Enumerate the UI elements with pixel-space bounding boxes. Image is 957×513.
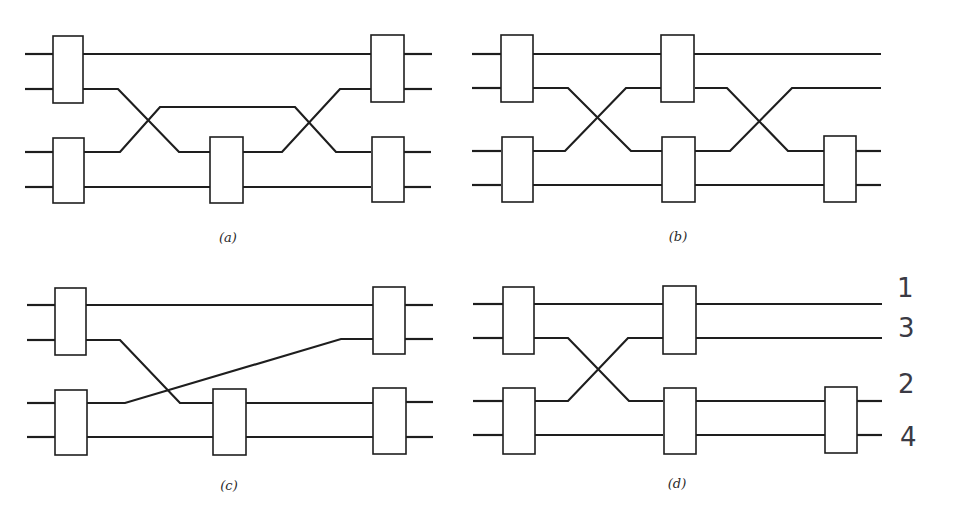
wire-segment [534,338,663,401]
comparator-box [503,287,534,354]
wire-segment [86,340,213,403]
handwritten-output-labels: 1 3 2 4 [897,273,917,452]
comparator-box [503,388,535,454]
comparator-box [53,36,83,103]
comparator-box [373,287,405,354]
comparator-box [53,138,84,203]
comparator-box [372,137,404,202]
comparator-box [664,388,696,454]
handwritten-label-1: 1 [897,273,914,303]
comparator-box [825,387,857,453]
panel-a [25,35,432,203]
panel-b [472,35,881,202]
comparator-box [373,388,406,454]
comparator-box [663,286,696,354]
comparator-box [55,288,86,355]
comparator-box [501,35,533,102]
sorting-network-figure: (a) (b) (c) (d) 1 3 2 4 [0,0,957,513]
comparator-box [213,389,246,455]
comparator-box [210,137,243,203]
comparator-box [662,137,695,202]
comparator-box [661,35,694,102]
wire-segment [533,88,661,151]
panel-c-caption: (c) [220,478,237,493]
panel-b-caption: (b) [669,229,687,244]
comparator-box [55,390,87,455]
comparator-box [371,35,404,102]
wire-segment [83,89,210,152]
panel-d [473,286,882,454]
panel-c [27,287,433,455]
panel-a-caption: (a) [219,230,237,245]
panel-d-caption: (d) [668,476,686,491]
handwritten-label-3: 3 [898,313,915,343]
comparator-box [824,136,856,202]
wire-segment [533,88,662,151]
comparator-box [502,137,533,202]
handwritten-label-2: 2 [898,369,915,399]
handwritten-label-4: 4 [900,422,917,452]
